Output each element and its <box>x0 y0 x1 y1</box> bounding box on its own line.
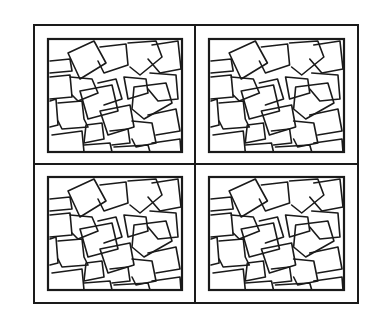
tile-shape <box>310 247 342 273</box>
tile-group <box>211 41 343 152</box>
tile-shape <box>211 213 233 237</box>
tile-group <box>50 41 181 152</box>
tile-shape <box>211 197 233 211</box>
tile-shape <box>310 41 343 73</box>
tile-shape <box>50 59 72 73</box>
panel-top-left <box>48 39 182 152</box>
tile-group <box>50 179 181 290</box>
tile-shape <box>50 99 58 127</box>
tile-shape <box>50 213 72 237</box>
tile-shape <box>310 73 340 101</box>
tile-shape <box>213 131 245 152</box>
panel-bottom-left <box>48 177 182 290</box>
tile-shape <box>259 182 289 211</box>
tile-shape <box>50 197 72 211</box>
tile-shape <box>50 75 72 99</box>
tile-shape <box>148 109 180 135</box>
tile-shape <box>98 79 122 105</box>
figure-canvas <box>0 0 379 317</box>
tile-shape <box>124 77 148 99</box>
tile-shape <box>50 237 58 265</box>
tile-shape <box>98 217 122 243</box>
tile-shape <box>259 79 283 105</box>
tile-shape <box>211 237 219 265</box>
tile-shape <box>245 281 273 290</box>
tile-shape <box>211 99 219 127</box>
tile-shape <box>213 269 245 290</box>
tile-group <box>211 179 343 290</box>
tile-shape <box>286 77 310 99</box>
tile-shape <box>52 269 84 290</box>
tile-shape <box>98 44 128 73</box>
tile-shape <box>259 217 283 243</box>
tile-mosaic-diagram <box>0 0 379 317</box>
tile-shape <box>148 41 181 73</box>
tile-shape <box>211 75 233 99</box>
tile-shape <box>52 131 84 152</box>
tile-shape <box>148 247 180 273</box>
tile-shape <box>98 182 128 211</box>
tile-shape <box>148 211 178 239</box>
tile-shape <box>310 109 342 135</box>
tile-shape <box>245 143 273 152</box>
tile-shape <box>310 211 340 239</box>
tile-shape <box>148 179 181 211</box>
tile-shape <box>310 179 343 211</box>
tile-shape <box>148 73 178 101</box>
tile-shape <box>84 281 112 290</box>
tile-shape <box>124 215 148 237</box>
tile-shape <box>259 44 289 73</box>
panel-bottom-right <box>209 177 344 290</box>
tile-shape <box>211 59 233 73</box>
panel-top-right <box>209 39 344 152</box>
tile-shape <box>286 215 310 237</box>
tile-shape <box>84 143 112 152</box>
